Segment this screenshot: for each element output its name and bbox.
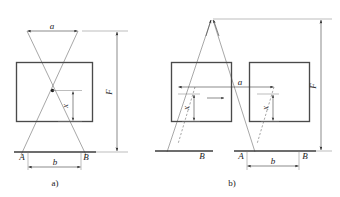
apex-arrow-left	[206, 20, 211, 36]
panel-a-rays	[21, 31, 86, 155]
ray-apex-to-right-base	[213, 20, 255, 152]
panel-b: a x x B A B b	[155, 19, 332, 188]
ray-right-to-A	[21, 31, 78, 155]
caption-a: a)	[52, 178, 59, 188]
dashed-ray-right-box	[257, 87, 274, 144]
figure-container: a x A B b	[0, 0, 340, 197]
label-B-b-right: B	[302, 151, 308, 161]
label-b-a: b	[53, 157, 58, 167]
label-B-b-left: B	[199, 151, 205, 161]
image-frame-b-right	[250, 63, 310, 122]
label-B-a: B	[83, 152, 89, 162]
ray-apex-to-left-base	[167, 20, 211, 152]
label-b-b: b	[271, 156, 276, 166]
label-x-b-left: x	[181, 106, 191, 111]
label-x-b-right: x	[260, 106, 270, 111]
label-A-b-right: A	[237, 151, 244, 161]
label-a-top-b: a	[238, 77, 243, 87]
caption-b: b)	[228, 178, 236, 188]
label-F-a: F	[104, 89, 114, 96]
label-x-a: x	[60, 104, 70, 109]
image-frame-b-left	[172, 63, 232, 122]
technical-diagram-svg: a x A B b	[0, 0, 340, 197]
image-frame-a	[17, 63, 93, 122]
ray-left-to-B	[27, 31, 86, 155]
apex-arrow-right	[214, 20, 220, 36]
dashed-ray-left-box	[178, 87, 195, 144]
panel-b-rays	[167, 20, 274, 152]
label-A-a: A	[18, 152, 25, 162]
label-a-top: a	[50, 21, 55, 31]
panel-a: a x A B b	[14, 21, 128, 189]
label-F-b: F	[308, 83, 318, 90]
